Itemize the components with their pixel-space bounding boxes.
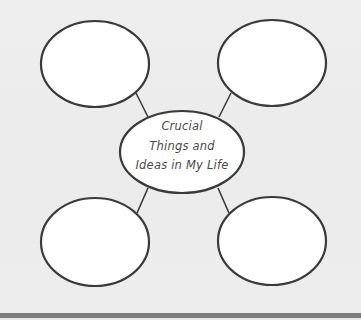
connector-top-left <box>136 93 148 117</box>
center-label-line-3: Ideas in My Life <box>120 156 244 176</box>
node-top-left[interactable] <box>41 21 149 107</box>
center-label-line-1: Crucial <box>120 117 244 137</box>
connector-bottom-right <box>218 188 229 213</box>
center-label-line-2: Things and <box>120 137 244 157</box>
connector-top-right <box>219 93 231 117</box>
node-bottom-right[interactable] <box>218 197 326 285</box>
connector-bottom-left <box>137 188 148 213</box>
center-node-label: Crucial Things and Ideas in My Life <box>120 117 244 176</box>
worksheet-canvas: Crucial Things and Ideas in My Life <box>0 0 361 320</box>
node-top-right[interactable] <box>218 20 326 106</box>
node-bottom-left[interactable] <box>41 198 149 286</box>
